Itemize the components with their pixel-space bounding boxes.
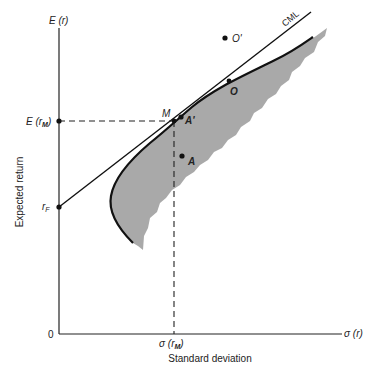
o-label: O — [230, 86, 238, 97]
feasible-set-area — [110, 28, 327, 250]
cml-chart: E (r) σ (r) 0 E (rM) rF σ (rM) Standard … — [0, 0, 372, 371]
rf-point — [56, 204, 61, 209]
cml-annotation: CML — [280, 9, 301, 29]
o-prime-point — [222, 35, 227, 40]
a-prime-label: A' — [184, 115, 195, 126]
e-rm-point — [56, 118, 61, 123]
x-axis-end-label: σ (r) — [344, 328, 363, 339]
rf-tick-label: rF — [42, 201, 50, 213]
chart-svg: E (r) σ (r) 0 E (rM) rF σ (rM) Standard … — [0, 0, 372, 371]
a-prime-point — [178, 114, 183, 119]
y-axis-title: Expected return — [14, 157, 25, 228]
a-point — [179, 153, 184, 158]
x-axis-title: Standard deviation — [168, 353, 251, 364]
e-rm-tick-label: E (rM) — [26, 116, 51, 128]
o-point — [227, 79, 232, 84]
m-label: M — [162, 108, 171, 119]
y-axis-end-label: E (r) — [49, 15, 68, 26]
origin-label: 0 — [48, 329, 54, 340]
a-label: A — [187, 156, 195, 167]
sigma-rm-tick-label: σ (rM) — [159, 338, 184, 350]
m-point — [172, 119, 177, 124]
o-prime-label: O' — [232, 33, 243, 44]
